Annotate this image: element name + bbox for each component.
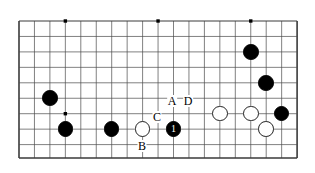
black-stone[interactable]: [258, 75, 274, 91]
star-point: [156, 19, 159, 22]
point-label-b: B: [137, 140, 146, 152]
white-stone[interactable]: [258, 121, 274, 137]
black-stone[interactable]: [243, 44, 259, 60]
point-label-d: D: [183, 95, 193, 107]
board-surface: 1 ADCB: [0, 0, 315, 173]
white-stone[interactable]: [212, 106, 228, 122]
star-point: [64, 112, 67, 115]
move-number-label: 1: [167, 122, 181, 136]
white-stone[interactable]: [243, 106, 259, 122]
star-point: [64, 19, 67, 22]
point-label-c: C: [152, 111, 161, 123]
black-stone[interactable]: [58, 121, 74, 137]
point-label-a: A: [167, 95, 177, 107]
black-stone[interactable]: 1: [166, 121, 182, 137]
go-board-diagram: 1 ADCB: [0, 0, 315, 173]
black-stone[interactable]: [42, 90, 58, 106]
star-point: [249, 19, 252, 22]
